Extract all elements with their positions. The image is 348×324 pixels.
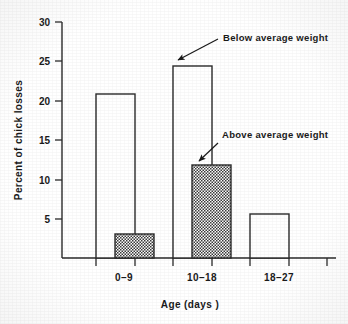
bar-chart-svg: 30 25 20 15 10 5 Percent of chick losses xyxy=(0,0,348,324)
x-category-label-18-27: 18–27 xyxy=(264,272,294,283)
bar-below-average-group-3 xyxy=(250,214,289,258)
chart-figure: 30 25 20 15 10 5 Percent of chick losses xyxy=(0,0,348,324)
x-category-label-0-9: 0–9 xyxy=(115,272,133,283)
bar-above-average-group-1 xyxy=(115,234,154,258)
y-tick-label-25: 25 xyxy=(39,56,51,67)
y-tick-label-20: 20 xyxy=(39,96,51,107)
y-tick-label-5: 5 xyxy=(44,214,50,225)
x-axis-ticks xyxy=(96,258,327,266)
annotation-above-average-weight: Above average weight xyxy=(199,129,329,161)
bar-above-average-group-2 xyxy=(192,165,231,258)
y-tick-label-10: 10 xyxy=(39,175,51,186)
x-axis-title: Age (days ) xyxy=(161,299,219,310)
y-axis-ticks: 30 25 20 15 10 5 xyxy=(39,17,62,225)
annotation-above-label: Above average weight xyxy=(222,129,329,140)
annotation-below-label: Below average weight xyxy=(223,32,329,43)
x-category-label-10-18: 10–18 xyxy=(187,272,217,283)
y-tick-label-30: 30 xyxy=(39,17,51,28)
y-axis-title: Percent of chick losses xyxy=(13,80,24,200)
annotation-below-average-weight: Below average weight xyxy=(178,32,329,60)
annotation-below-arrow xyxy=(178,39,218,60)
y-tick-label-15: 15 xyxy=(39,135,51,146)
